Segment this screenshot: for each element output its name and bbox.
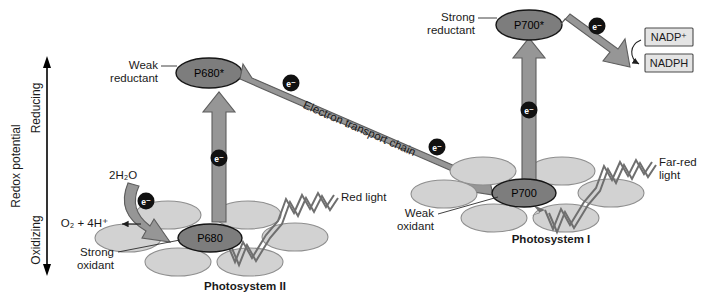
nadp-plus-label: NADP⁺ [651, 31, 688, 43]
electron-badge-label: e⁻ [524, 106, 534, 116]
p680-star-label: P680* [194, 67, 225, 79]
figure-canvas: Redox potential Reducing Oxidizing Red l… [0, 0, 702, 298]
oxygen-products-label: O₂ + 4H⁺ [61, 217, 108, 229]
weak-oxidant-label-line1: Weak [405, 207, 434, 219]
electron-badge-label: e⁻ [141, 197, 151, 207]
electron-badge-label: e⁻ [592, 22, 602, 32]
electron-badge-etc-upper: e⁻ [283, 75, 300, 92]
antenna-pigment-ellipse [411, 180, 477, 208]
electron-badge-label: e⁻ [432, 143, 442, 153]
p700-star-label: P700* [514, 19, 545, 31]
axis-arrowhead-top [43, 56, 51, 68]
weak-reductant-label-line1: Weak [129, 59, 158, 71]
far-red-light-label-line1: Far-red [659, 156, 697, 168]
red-light-label: Red light [341, 191, 387, 203]
antenna-pigment-ellipse [461, 204, 527, 232]
strong-oxidant-label-line2: oxidant [77, 259, 115, 271]
photosystem-ii-title: Photosystem II [204, 280, 286, 292]
etc-label: Electron transport chain [302, 99, 418, 158]
strong-oxidant-label-line1: Strong [80, 246, 114, 258]
strong-reductant-label-line1: Strong [441, 11, 475, 23]
water-substrate-label: 2H₂O [109, 169, 137, 181]
electron-badge-etc-lower: e⁻ [429, 139, 446, 156]
far-red-light-label-line2: light [659, 169, 681, 181]
nadp-reduction-group: e⁻ NADP⁺ NADPH [561, 14, 693, 72]
nadph-label: NADPH [650, 57, 689, 69]
axis-arrowhead-bottom [43, 264, 51, 276]
axis-title: Redox potential [9, 124, 23, 207]
p700-label: P700 [511, 187, 537, 199]
p680-label: P680 [197, 232, 223, 244]
electron-badge-nadp: e⁻ [589, 18, 606, 35]
nadp-conversion-arrow [632, 40, 641, 64]
electron-badge-psi-excitation: e⁻ [521, 102, 538, 119]
z-scheme-diagram: Redox potential Reducing Oxidizing Red l… [0, 0, 702, 298]
weak-oxidant-label-line2: oxidant [397, 220, 435, 232]
photosystem-i-title: Photosystem I [512, 233, 591, 245]
electron-badge-label: e⁻ [286, 79, 296, 89]
antenna-pigment-ellipse [145, 248, 211, 276]
axis-top-label: Reducing [29, 83, 43, 134]
redox-axis: Redox potential Reducing Oxidizing [9, 56, 51, 276]
weak-reductant-label-line2: reductant [110, 72, 159, 84]
electron-badge-psii-excitation: e⁻ [211, 150, 228, 167]
antenna-pigment-ellipse [578, 179, 644, 207]
photosystem-ii-group: Red light e⁻ P680 P680* Weak reductant 2… [61, 58, 387, 292]
electron-badge-label: e⁻ [214, 154, 224, 164]
strong-reductant-label-line2: reductant [427, 24, 476, 36]
axis-bottom-label: Oxidizing [29, 215, 43, 264]
electron-badge-water: e⁻ [138, 193, 155, 210]
